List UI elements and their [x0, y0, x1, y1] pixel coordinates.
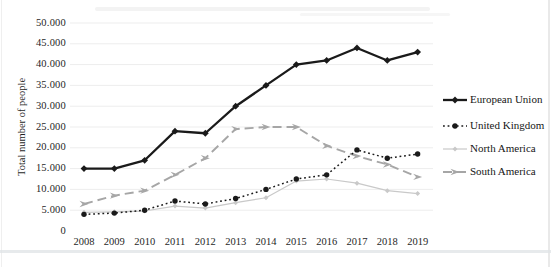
series-south-america-point — [352, 153, 361, 159]
series-north-america-line — [84, 179, 418, 212]
series-united-kingdom-point — [172, 198, 177, 203]
series-european-union-line — [84, 48, 418, 169]
x-tick-label: 2019 — [401, 236, 435, 247]
series-european-union-point — [414, 49, 421, 56]
y-tick-label: 5.000 — [18, 204, 66, 215]
series-south-america-point — [80, 201, 89, 207]
x-tick-label: 2018 — [370, 236, 404, 247]
y-tick-label: 10.000 — [18, 183, 66, 194]
series-south-america-line — [84, 127, 418, 204]
y-tick-label: 0 — [18, 225, 66, 236]
x-tick-label: 2017 — [340, 236, 374, 247]
legend-label-south-america: South America — [470, 165, 536, 177]
legend-label-united-kingdom: United Kingdom — [470, 119, 544, 131]
series-united-kingdom-point — [112, 210, 117, 215]
series-united-kingdom-point — [142, 208, 147, 213]
y-tick-label: 15.000 — [18, 162, 66, 173]
series-united-kingdom-point — [233, 196, 238, 201]
legend-sample-marker — [452, 123, 457, 128]
line-chart — [0, 0, 551, 267]
series-united-kingdom-point — [81, 212, 86, 217]
series-united-kingdom-point — [263, 187, 268, 192]
series-united-kingdom-point — [415, 151, 420, 156]
series-south-america-point — [413, 174, 422, 180]
series-european-union-point — [111, 165, 118, 172]
x-tick-label: 2015 — [279, 236, 313, 247]
series-north-america-point — [172, 204, 177, 209]
chart-container: Total number of people 05.00010.00015.00… — [0, 0, 551, 267]
series-united-kingdom-point — [385, 156, 390, 161]
x-tick-label: 2008 — [67, 236, 101, 247]
series-european-union-point — [81, 165, 88, 172]
legend-sample-marker — [453, 147, 458, 152]
series-north-america-point — [385, 188, 390, 193]
y-tick-label: 40.000 — [18, 58, 66, 69]
series-european-union-point — [384, 57, 391, 64]
y-tick-label: 25.000 — [18, 121, 66, 132]
y-tick-label: 20.000 — [18, 141, 66, 152]
series-united-kingdom-point — [203, 201, 208, 206]
x-tick-label: 2014 — [249, 236, 283, 247]
x-tick-label: 2010 — [128, 236, 162, 247]
series-north-america-point — [354, 181, 359, 186]
x-tick-label: 2009 — [97, 236, 131, 247]
x-tick-label: 2013 — [219, 236, 253, 247]
x-tick-label: 2012 — [188, 236, 222, 247]
y-tick-label: 35.000 — [18, 79, 66, 90]
series-united-kingdom-point — [354, 147, 359, 152]
series-united-kingdom-point — [324, 172, 329, 177]
legend-label-european-union: European Union — [470, 93, 542, 105]
x-tick-label: 2016 — [310, 236, 344, 247]
x-tick-label: 2011 — [158, 236, 192, 247]
series-north-america-point — [263, 195, 268, 200]
series-north-america-point — [415, 191, 420, 196]
y-tick-label: 50.000 — [18, 17, 66, 28]
legend-sample-marker — [452, 97, 459, 104]
series-united-kingdom-point — [294, 176, 299, 181]
y-tick-label: 45.000 — [18, 37, 66, 48]
y-tick-label: 30.000 — [18, 100, 66, 111]
series-european-union-point — [323, 57, 330, 64]
legend-label-north-america: North America — [470, 142, 536, 154]
series-european-union-point — [354, 45, 361, 52]
